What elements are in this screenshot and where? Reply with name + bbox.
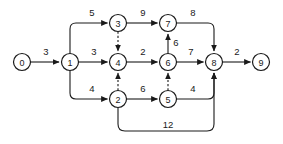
node-label-1: 1 [67, 58, 72, 68]
node-label-7: 7 [165, 19, 170, 29]
node-label-6: 6 [165, 58, 170, 68]
edge-weight-6-8: 7 [188, 46, 193, 57]
edge-weight-7-8: 8 [190, 7, 195, 18]
edge-7-to-8 [177, 23, 215, 51]
edge-weight-2-8: 12 [163, 119, 174, 130]
edge-weight-1-3: 5 [89, 7, 94, 18]
node-6[interactable]: 6 [160, 54, 177, 71]
edge-weight-6-7: 6 [173, 37, 178, 48]
edge-weight-8-9: 2 [234, 46, 239, 57]
edges-layer [31, 23, 251, 131]
node-8[interactable]: 8 [206, 54, 223, 71]
network-diagram: 35349268674212 0123456789 [0, 0, 283, 144]
node-5[interactable]: 5 [160, 91, 177, 108]
edge-weight-2-5: 6 [140, 83, 145, 94]
node-7[interactable]: 7 [160, 15, 177, 32]
node-1[interactable]: 1 [62, 54, 79, 71]
node-label-5: 5 [165, 95, 170, 105]
node-label-4: 4 [115, 58, 120, 68]
edge-weight-1-4: 3 [91, 46, 96, 57]
edge-weight-5-8: 4 [190, 83, 195, 94]
node-label-9: 9 [258, 58, 263, 68]
edge-1-to-3 [70, 23, 108, 54]
node-label-8: 8 [211, 58, 216, 68]
node-label-3: 3 [115, 19, 120, 29]
node-0[interactable]: 0 [14, 54, 31, 71]
node-9[interactable]: 9 [253, 54, 270, 71]
node-2[interactable]: 2 [110, 91, 127, 108]
edge-weight-3-7: 9 [140, 7, 145, 18]
nodes-layer: 0123456789 [14, 15, 270, 108]
node-4[interactable]: 4 [110, 54, 127, 71]
node-label-0: 0 [19, 58, 24, 68]
edge-weight-1-2: 4 [89, 83, 94, 94]
graph-canvas: 35349268674212 0123456789 [0, 0, 283, 144]
edge-weight-4-6: 2 [140, 46, 145, 57]
node-label-2: 2 [115, 95, 120, 105]
edge-weight-0-1: 3 [43, 46, 48, 57]
node-3[interactable]: 3 [110, 15, 127, 32]
